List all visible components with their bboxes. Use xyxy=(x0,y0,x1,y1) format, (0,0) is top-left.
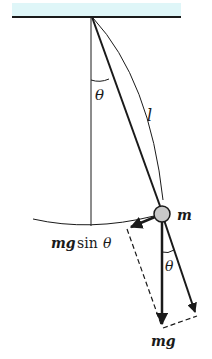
length-arc xyxy=(93,18,163,200)
theta-arc-top xyxy=(91,79,109,81)
dashed-component-line-bottom xyxy=(163,316,197,328)
theta-arc-bottom xyxy=(162,250,174,253)
swing-arc xyxy=(33,216,154,225)
theta-label-bottom: θ xyxy=(165,258,174,274)
length-label: l xyxy=(147,106,152,125)
weight-label: mg xyxy=(151,333,176,349)
mass-label: m xyxy=(177,207,192,223)
restoring-force-label-theta: θ xyxy=(103,235,112,251)
restoring-force-label-sin: sin xyxy=(77,235,98,251)
restoring-force-label-mg: mg xyxy=(51,235,76,251)
ceiling-support xyxy=(12,3,181,16)
pendulum-bob xyxy=(154,206,170,222)
theta-label-top: θ xyxy=(95,86,104,104)
dashed-component-line-left xyxy=(127,229,162,327)
pendulum-diagram: θ l m mg sin θ θ mg xyxy=(0,0,212,359)
